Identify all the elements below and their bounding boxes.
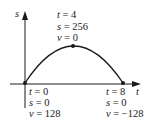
position-time-diagram: [0, 0, 155, 125]
end-t-label: t = 8: [106, 86, 125, 97]
peak-point-dot: [71, 44, 75, 48]
start-v-label: v = 128: [29, 108, 61, 119]
start-t-label: t = 0: [29, 86, 48, 97]
end-point-dot: [121, 81, 125, 85]
s-axis-arrow-icon: [22, 11, 28, 20]
peak-s-label: s = 256: [57, 21, 88, 32]
end-s-label: s = 0: [106, 97, 127, 108]
t-axis-label: t: [136, 86, 139, 97]
peak-t-label: t = 4: [57, 9, 76, 20]
start-s-label: s = 0: [29, 97, 50, 108]
trajectory-curve: [25, 46, 123, 83]
s-axis-label: s: [15, 8, 19, 19]
end-v-label: v = −128: [106, 108, 144, 119]
start-point-dot: [23, 81, 27, 85]
peak-v-label: v = 0: [57, 32, 78, 43]
